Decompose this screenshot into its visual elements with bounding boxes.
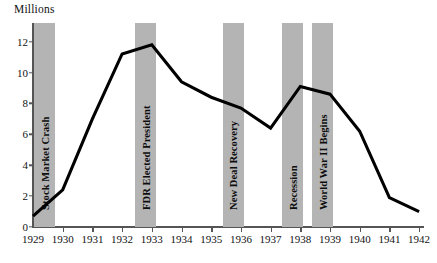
x-tick-mark: [92, 228, 93, 232]
y-tick-mark: [29, 72, 33, 73]
y-tick-mark: [29, 164, 33, 165]
event-band-label: Stock Market Crash: [39, 117, 50, 210]
x-tick-mark: [211, 228, 212, 232]
event-band-label: World War II Begins: [317, 114, 328, 210]
y-tick-mark: [29, 195, 33, 196]
event-band: World War II Begins: [312, 23, 333, 227]
data-series-layer: [0, 0, 437, 263]
x-tick-label: 1942: [399, 233, 437, 245]
x-tick-mark: [419, 228, 420, 232]
x-tick-mark: [389, 228, 390, 232]
x-tick-mark: [271, 228, 272, 232]
x-tick-mark: [122, 228, 123, 232]
x-tick-mark: [360, 228, 361, 232]
event-band-label: New Deal Recovery: [228, 121, 239, 210]
y-axis-unit-label: Millions: [14, 3, 55, 15]
x-tick-mark: [63, 228, 64, 232]
y-tick-mark: [29, 103, 33, 104]
x-tick-mark: [300, 228, 301, 232]
y-tick-label: 0: [6, 221, 28, 233]
y-tick-label: 4: [6, 159, 28, 171]
y-tick-label: 2: [6, 190, 28, 202]
y-tick-label: 10: [6, 67, 28, 79]
event-band: FDR Elected President: [135, 23, 156, 227]
y-tick-label: 12: [6, 36, 28, 48]
x-tick-mark: [152, 228, 153, 232]
y-axis-line: [32, 23, 34, 228]
event-band: Stock Market Crash: [34, 23, 55, 227]
y-tick-mark: [29, 226, 33, 227]
unemployment-line-chart: Millions Stock Market CrashFDR Elected P…: [0, 0, 437, 263]
y-tick-label: 6: [6, 128, 28, 140]
x-tick-mark: [182, 228, 183, 232]
event-band: Recession: [282, 23, 303, 227]
event-band-label: Recession: [287, 165, 298, 210]
y-tick-mark: [29, 41, 33, 42]
event-band-label: FDR Elected President: [140, 105, 151, 210]
event-band: New Deal Recovery: [223, 23, 244, 227]
x-tick-mark: [241, 228, 242, 232]
x-tick-mark: [330, 228, 331, 232]
y-tick-label: 8: [6, 97, 28, 109]
y-tick-mark: [29, 134, 33, 135]
